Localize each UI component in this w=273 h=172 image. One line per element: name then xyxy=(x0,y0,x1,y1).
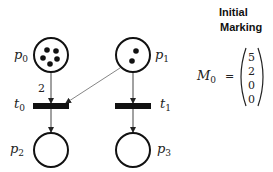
place-label-p3: p3 xyxy=(157,141,171,158)
matrix-right-paren xyxy=(258,48,263,106)
place-label-p1: p1 xyxy=(155,47,169,64)
place-p2 xyxy=(34,133,68,167)
marking-header-line2: Marking xyxy=(220,21,262,33)
transition-label-t1: t1 xyxy=(160,96,171,113)
arc-weight-p0-t0: 2 xyxy=(38,82,45,95)
place-label-p0: p0 xyxy=(14,47,28,64)
place-p1 xyxy=(116,38,150,72)
transition-t1 xyxy=(115,103,151,109)
place-p3 xyxy=(116,133,150,167)
place-p0 xyxy=(34,38,68,72)
marking-equals: = xyxy=(225,70,234,83)
matrix-left-paren xyxy=(241,48,246,106)
transition-label-t0: t0 xyxy=(14,96,25,113)
marking-value-p3: 0 xyxy=(248,93,255,106)
place-label-p2: p2 xyxy=(10,141,24,158)
marking-header-line1: Initial xyxy=(219,6,248,18)
arc-p1-t0 xyxy=(66,68,120,103)
marking-value-p0: 5 xyxy=(248,51,255,64)
marking-value-p2: 0 xyxy=(248,79,255,92)
transition-t0 xyxy=(33,103,69,109)
petri-net-diagram: 2 p0 p1 p2 p3 t0 xyxy=(0,0,273,172)
marking-value-p1: 2 xyxy=(248,65,255,78)
marking-label: M0 xyxy=(196,68,216,85)
arcs xyxy=(51,68,133,132)
